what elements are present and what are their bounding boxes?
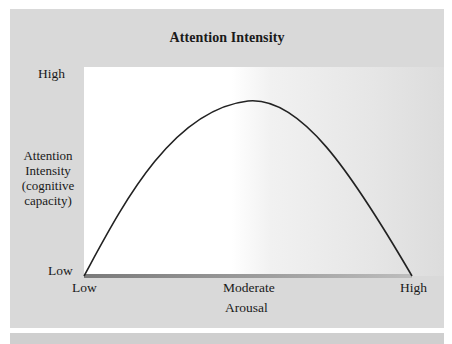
y-axis-title: Attention Intensity (cognitive capacity)	[14, 148, 82, 208]
y-tick-low: Low	[48, 263, 73, 278]
figure-caption-bar	[10, 333, 444, 344]
y-tick-high: High	[38, 66, 65, 81]
x-tick-low: Low	[72, 280, 97, 295]
y-axis-title-line-3: (cognitive	[14, 178, 82, 193]
x-tick-moderate: Moderate	[223, 280, 275, 295]
x-tick-high: High	[400, 280, 427, 295]
y-axis-title-line-2: Intensity	[14, 163, 82, 178]
inverted-u-line	[84, 101, 412, 276]
x-axis-title: Arousal	[225, 300, 268, 315]
y-axis-title-line-1: Attention	[14, 148, 82, 163]
y-axis-title-line-4: capacity)	[14, 193, 82, 208]
